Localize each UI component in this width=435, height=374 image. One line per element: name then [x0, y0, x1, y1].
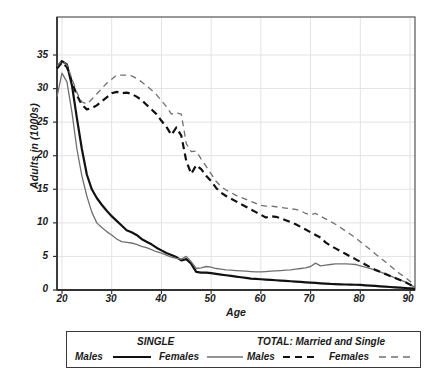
legend-swatches [67, 332, 422, 369]
data-series-layer [57, 60, 415, 288]
plot-canvas [0, 0, 435, 374]
series-total-married-and-single-females [57, 60, 415, 286]
legend: SINGLE TOTAL: Married and Single Males F… [66, 331, 421, 368]
chart-figure: Adults in (1000s) 35 30 25 20 15 10 5 0 … [0, 0, 435, 374]
plot-border [57, 17, 415, 290]
series-single-males [57, 61, 415, 289]
gridlines [57, 17, 415, 290]
series-total-married-and-single-males [57, 62, 415, 287]
series-single-females [57, 73, 415, 287]
